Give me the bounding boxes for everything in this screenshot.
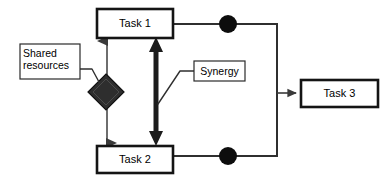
task1-box[interactable]: [97, 9, 173, 38]
junction-circle-bottom: [219, 147, 237, 165]
callout-boxes: [20, 44, 245, 81]
synergy-box[interactable]: [194, 61, 245, 81]
shared-resources-diamond-icon: [88, 74, 124, 110]
task2-box[interactable]: [97, 146, 173, 173]
diagram-vector-layer: [0, 0, 392, 183]
connector-network: [173, 23, 296, 157]
diagram-canvas: Task 1 Task 2 Task 3 Shared resources Sy…: [0, 0, 392, 183]
junction-nodes: [219, 15, 237, 165]
shared-resources-box[interactable]: [20, 44, 80, 79]
leader-synergy: [158, 71, 194, 104]
task-boxes: [97, 9, 378, 173]
task3-box[interactable]: [301, 80, 378, 107]
junction-circle-top: [219, 15, 237, 33]
leader-shared-resources: [80, 69, 99, 82]
synergy-double-arrow: [149, 37, 163, 146]
